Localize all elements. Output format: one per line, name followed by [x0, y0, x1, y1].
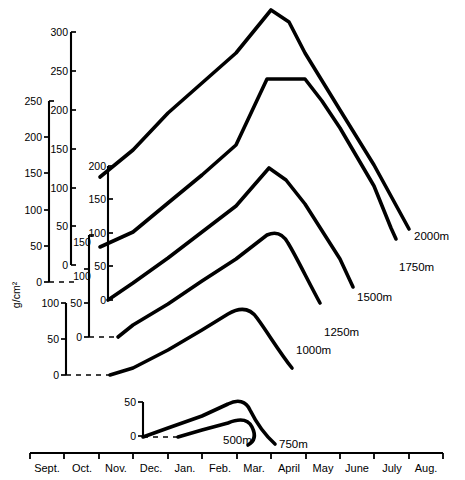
x-axis-label-sept: Sept.: [34, 462, 60, 474]
x-axis-label-aug: Aug.: [415, 462, 438, 474]
axis-1750m-label-150: 150: [24, 167, 42, 179]
series-label-1500m: 1500m: [357, 291, 392, 303]
axis-1500m-label-0: 0: [100, 294, 106, 306]
axis-2000m-label-150: 150: [50, 143, 68, 155]
axis-2000m-label-0: 0: [62, 259, 68, 271]
axis-1500m-label-100: 100: [88, 227, 106, 239]
axis-1750m-label-50: 50: [30, 240, 42, 252]
series-label-500m: 500m: [223, 434, 252, 446]
axis-1750m-label-200: 200: [24, 131, 42, 143]
x-axis-label-dec: Dec.: [140, 462, 163, 474]
x-axis-label-may: May: [313, 462, 334, 474]
x-axis-label-jan: Jan.: [175, 462, 196, 474]
curve-1500m: [108, 168, 353, 300]
axis-1250m-label-0: 0: [76, 331, 82, 343]
x-axis-label-july: July: [382, 462, 402, 474]
x-axis-label-mar: Mar.: [243, 462, 264, 474]
x-axis-label-feb: Feb.: [209, 462, 231, 474]
x-axis-label-june: June: [345, 462, 369, 474]
series-label-1750m: 1750m: [399, 261, 434, 273]
axis-2000m-label-250: 250: [50, 65, 68, 77]
series-label-1250m: 1250m: [324, 326, 359, 338]
axis-2000m-label-200: 200: [50, 104, 68, 116]
series-label-750m: 750m: [279, 438, 308, 450]
chart-svg: 300 250 200 150 100 50 0 250 200 150 100…: [0, 0, 465, 480]
axis-1500m: 200 150 100 50 0: [88, 160, 113, 306]
x-axis: Sept. Oct. Nov. Dec. Jan. Feb. Mar. Apri…: [30, 453, 443, 474]
axis-1000m-label-100: 100: [41, 297, 59, 309]
axis-1750m-label-0: 0: [36, 276, 42, 288]
axis-1500m-label-200: 200: [88, 160, 106, 172]
series-label-1000m: 1000m: [296, 344, 331, 356]
axis-1250m-label-50: 50: [70, 297, 82, 309]
x-axis-label-nov: Nov.: [105, 462, 127, 474]
axis-2000m-label-300: 300: [50, 26, 68, 38]
curve-2000m: [100, 10, 409, 229]
axis-1500m-label-50: 50: [94, 260, 106, 272]
x-axis-label-oct: Oct.: [72, 462, 92, 474]
curve-1750m: [100, 79, 396, 247]
axis-750m-label-50: 50: [124, 396, 136, 408]
snow-accumulation-chart: 300 250 200 150 100 50 0 250 200 150 100…: [0, 0, 465, 480]
series-label-2000m: 2000m: [414, 230, 449, 242]
axis-1250m: 150 100 50 0: [70, 235, 118, 343]
axis-2000m-label-100: 100: [50, 182, 68, 194]
axis-1250m-label-100: 100: [73, 270, 91, 282]
axis-1500m-label-150: 150: [88, 193, 106, 205]
axis-1000m-label-50: 50: [47, 333, 59, 345]
axis-2000m-label-50: 50: [56, 220, 68, 232]
axis-1750m-label-250: 250: [24, 95, 42, 107]
axis-750m-label-0: 0: [130, 430, 136, 442]
axis-1250m-label-150: 150: [73, 236, 91, 248]
axis-1750m-label-100: 100: [24, 204, 42, 216]
curve-1000m: [110, 309, 292, 375]
x-axis-label-april: April: [278, 462, 300, 474]
y-axis-title: g/cm²: [10, 281, 22, 308]
axis-2000m: 300 250 200 150 100 50 0: [50, 26, 76, 271]
axis-1000m-label-0: 0: [53, 369, 59, 381]
